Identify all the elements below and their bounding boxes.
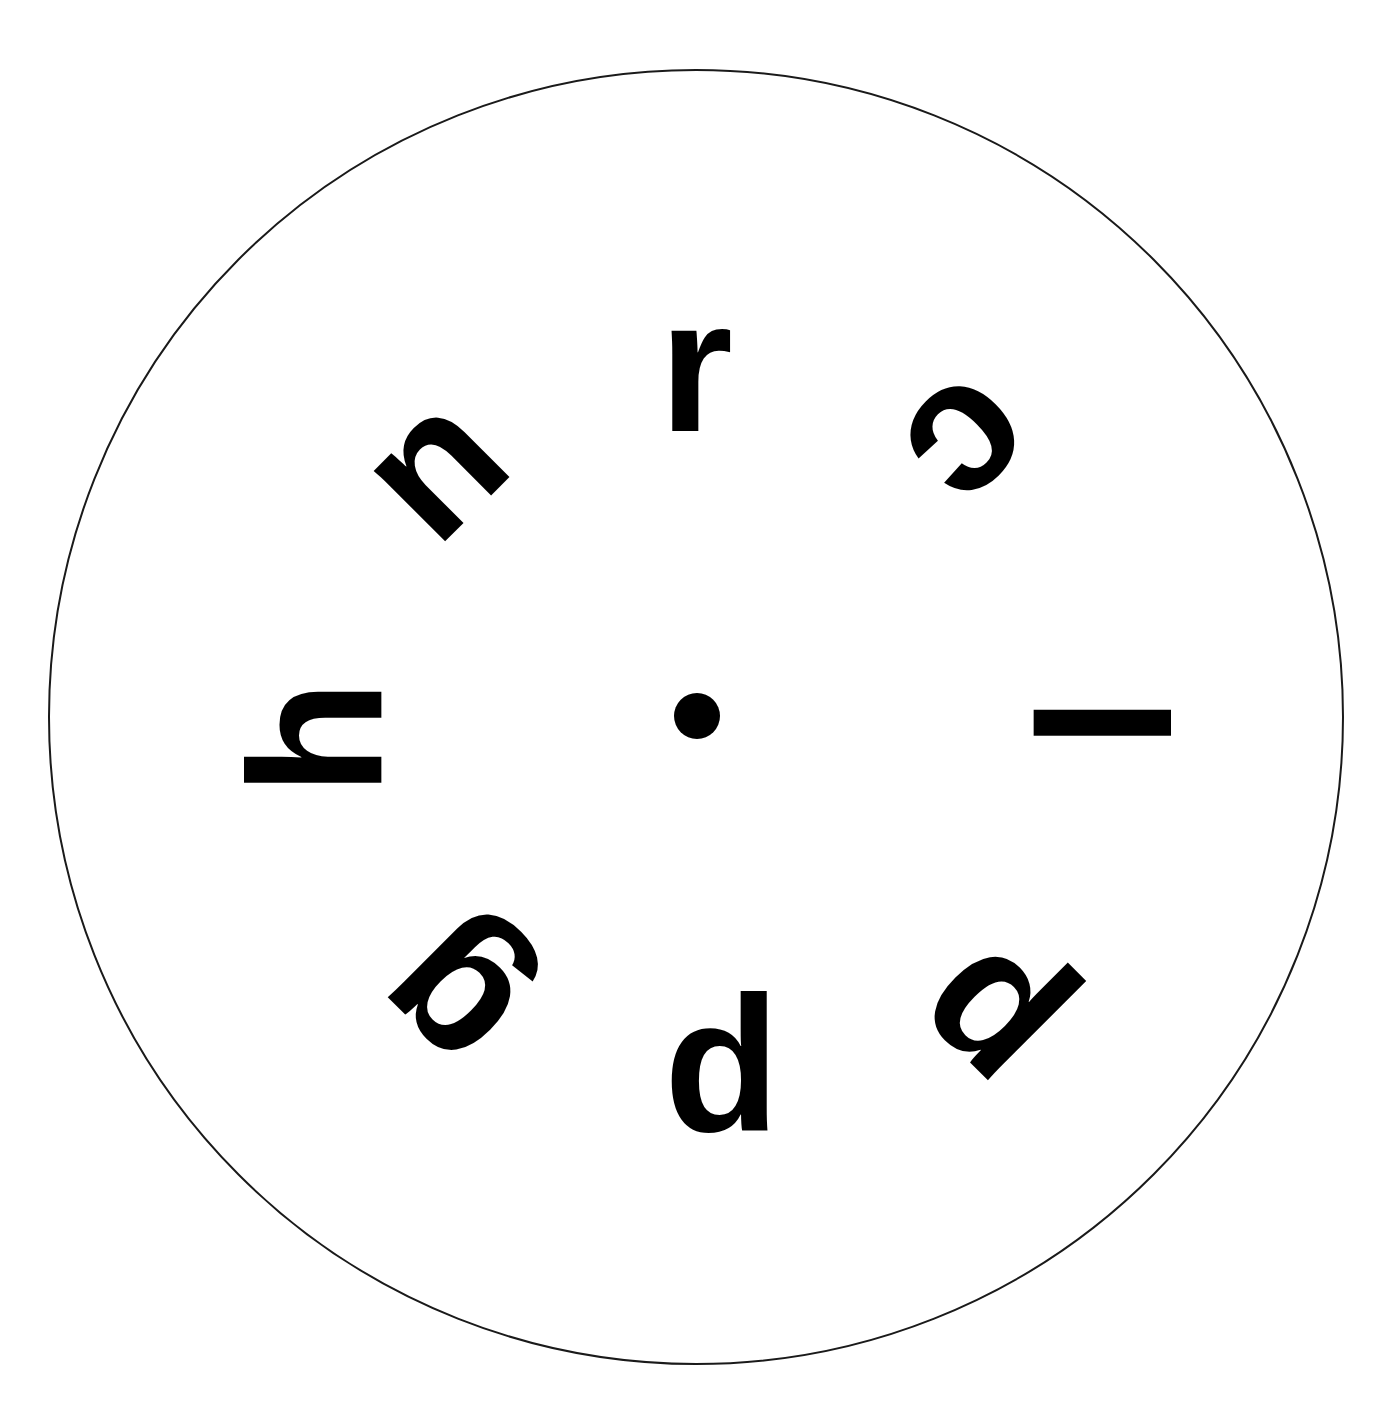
letter-glyph: p <box>664 1001 780 1191</box>
radial-letter-chart: rclppghn <box>0 0 1399 1406</box>
letter-glyph: r <box>659 270 733 460</box>
fixation-dot <box>674 693 720 739</box>
letter-glyph: l <box>1005 697 1195 750</box>
letter-glyph: h <box>220 680 410 796</box>
